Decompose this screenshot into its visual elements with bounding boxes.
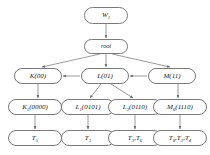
node-t8t2t4-label: T8,T2,T4 [169,134,191,141]
node-t3t6-label: T3,T6 [128,134,142,141]
node-l1-label: L1(0101) [76,103,101,110]
node-k1-label: K1(0000) [22,103,48,110]
edge-root-k [42,54,100,67]
node-m6-label: M6(1110) [167,103,193,110]
edge-l-l2 [111,84,133,98]
node-t1-label: T1 [85,134,91,141]
node-m6[interactable]: M6(1110) [153,99,207,115]
node-l2-label: L2(0110) [123,103,147,110]
node-k-label: K(00) [30,72,46,79]
node-k[interactable]: K(00) [14,68,62,84]
node-w1-label: W1 [102,12,110,19]
edge-root-m [112,54,170,67]
edge-l-l1 [90,84,101,98]
node-t5[interactable]: T5 [8,130,62,146]
node-k1[interactable]: K1(0000) [8,99,62,115]
node-w1[interactable]: W1 [84,7,128,24]
node-m[interactable]: M(11) [148,68,196,84]
node-root-label: root [101,43,111,49]
node-t5-label: T5 [32,134,38,141]
node-l1[interactable]: L1(0101) [61,99,115,115]
node-m-label: M(11) [164,72,181,79]
node-t1[interactable]: T1 [61,130,115,146]
diagram-canvas: W1 root K(00) L(01) M(11) K1(0000) L1(01… [0,0,210,155]
node-l[interactable]: L(01) [81,68,129,84]
node-l-label: L(01) [97,72,113,79]
node-root[interactable]: root [84,39,128,54]
node-t8t2t4[interactable]: T8,T2,T4 [153,130,207,146]
